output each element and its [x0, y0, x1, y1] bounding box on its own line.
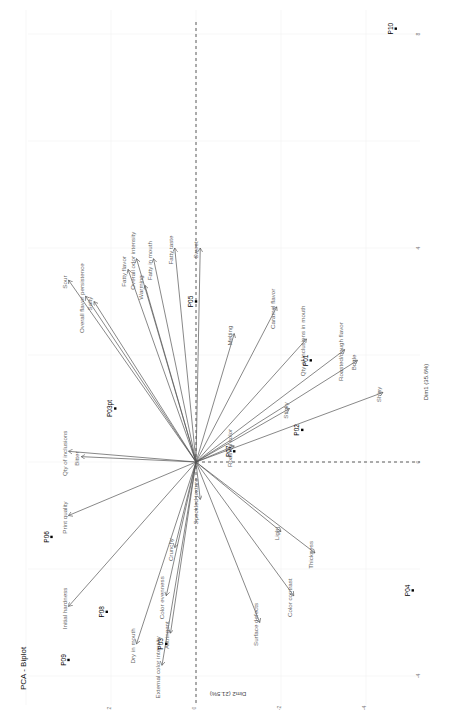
- individual-label: P04: [404, 584, 411, 596]
- variable-label: Speckled texture: [192, 478, 199, 525]
- y-tick-label: 0: [191, 706, 197, 709]
- individual-label: P07: [225, 445, 232, 457]
- variable-label: Overall odor intensity: [129, 231, 136, 290]
- y-tick-label: 2: [106, 706, 112, 709]
- individual-label: P03: [157, 638, 164, 650]
- individual-point: [114, 407, 116, 409]
- variable-label: Brittle: [350, 354, 357, 370]
- variable-label: Light: [273, 527, 280, 541]
- x-tick-label: 0: [415, 460, 421, 463]
- variable-arrow: [69, 462, 197, 516]
- individual-label: P02: [293, 424, 300, 436]
- individual-point: [233, 450, 235, 452]
- axis-ticks: -4048-4-202: [106, 32, 421, 710]
- y-axis-label: Dim2 (21.5%): [210, 691, 247, 697]
- variable-label: Surface defects: [252, 603, 259, 646]
- variable-label: Fatty in mouth: [146, 241, 153, 281]
- individual-label: P01: [302, 354, 309, 366]
- x-tick-label: -4: [415, 674, 421, 679]
- variable-label: Initial hardness: [61, 588, 68, 630]
- individual-point: [67, 659, 69, 661]
- variable-arrow: [86, 296, 197, 462]
- individual-point: [195, 300, 197, 302]
- individual-label: P09: [60, 654, 67, 666]
- individual-label: P10: [387, 22, 394, 34]
- variable-label: Shiny: [375, 386, 382, 402]
- variable-label: Color evenness: [158, 576, 165, 619]
- variable-label: Qty of inclusions: [61, 431, 68, 476]
- individual-label: P05: [187, 295, 194, 307]
- variable-label: Warming: [137, 275, 144, 300]
- variable-label: Crunchy: [167, 537, 174, 561]
- individual-label: P03pt: [106, 400, 114, 417]
- individual-point: [165, 643, 167, 645]
- variable-label: Sour: [61, 276, 68, 289]
- variable-label: Print quality: [61, 500, 68, 533]
- variable-label: Thickness: [307, 541, 314, 569]
- variable-arrows: Fatty tasteSweetCaramel flavorMeltingQty…: [61, 231, 384, 699]
- variable-label: Roasted/dough flavor: [337, 322, 344, 381]
- individual-point: [106, 611, 108, 613]
- pca-biplot: Fatty tasteSweetCaramel flavorMeltingQty…: [0, 0, 449, 722]
- variable-arrow: [94, 302, 196, 463]
- variable-arrow: [196, 339, 307, 462]
- x-axis-label: Dim1 (35.6%): [423, 364, 429, 401]
- variable-arrow: [69, 462, 197, 606]
- variable-label: Dry in mouth: [129, 628, 136, 664]
- grid: [26, 10, 420, 705]
- x-tick-label: 4: [415, 246, 421, 249]
- individual-point: [412, 589, 414, 591]
- y-tick-label: -4: [361, 706, 367, 711]
- variable-arrow: [145, 285, 196, 462]
- individual-point: [395, 27, 397, 29]
- individual-label: P06: [43, 531, 50, 543]
- variable-arrow: [196, 462, 281, 532]
- variable-arrow: [196, 350, 345, 462]
- y-tick-label: -2: [276, 706, 282, 711]
- variable-label: Sticky: [282, 401, 289, 418]
- variable-label: Sweet: [192, 241, 199, 258]
- variable-label: Caramel flavor: [269, 289, 276, 329]
- individual-point: [301, 429, 303, 431]
- x-tick-label: 8: [415, 32, 421, 35]
- individual-point: [50, 536, 52, 538]
- chart-title: PCA - Biplot: [19, 646, 28, 690]
- variable-label: Fatty taste: [167, 235, 174, 264]
- individual-label: P08: [98, 606, 105, 618]
- variable-label: Bitter: [73, 451, 80, 465]
- individual-point: [310, 359, 312, 361]
- variable-label: Color contrast: [286, 578, 293, 617]
- variable-label: Fatty flavor: [120, 256, 127, 287]
- variable-label: Melting: [226, 325, 233, 346]
- variable-label: Salty: [86, 296, 93, 311]
